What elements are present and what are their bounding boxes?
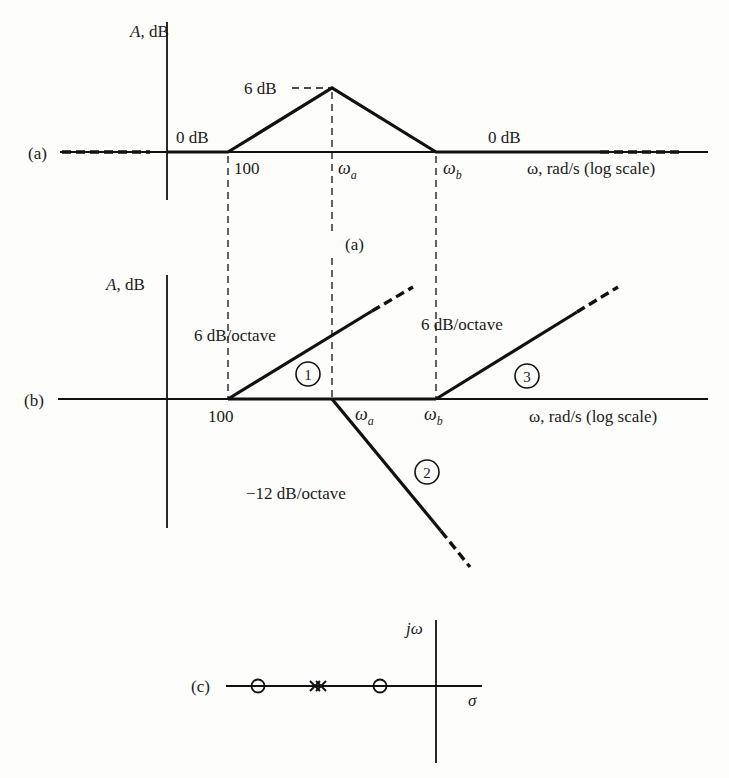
asymptote-1: [228, 311, 372, 399]
bode-diagram: A, dB (a) 6 dB 0 dB 0 dB 100 ωa ωb ω, ra…: [0, 0, 729, 778]
panel-a-high-level-label: 0 dB: [488, 128, 521, 147]
panel-b-x-label: ω, rad/s (log scale): [529, 407, 657, 426]
panel-b-breakpoint-wb: ωb: [424, 404, 443, 428]
panel-a-breakpoint-wb: ωb: [443, 158, 462, 182]
asymptote-2-extension: [441, 531, 470, 567]
asymptote-2-id: 2: [423, 465, 431, 481]
panel-c-label: (c): [191, 677, 210, 696]
panel-a-y-label: A, dB: [129, 22, 169, 41]
panel-a-label: (a): [28, 144, 47, 163]
panel-c: (c) jω σ: [191, 619, 482, 763]
panel-a-response-curve: [167, 88, 600, 152]
asymptote-1-extension: [372, 287, 413, 311]
panel-b-label: (b): [24, 391, 44, 410]
asymptote-1-slope-label: 6 dB/octave: [194, 326, 276, 345]
breakpoint-guides: [228, 92, 436, 399]
panel-b-breakpoint-wa: ωa: [355, 404, 374, 428]
asymptote-3-id: 3: [523, 369, 531, 385]
asymptote-3-extension: [577, 287, 618, 312]
panel-a-breakpoint-100: 100: [234, 159, 260, 178]
panel-a-peak-label: 6 dB: [244, 79, 277, 98]
asymptote-2-slope-label: −12 dB/octave: [246, 484, 346, 503]
panel-a-breakpoint-wa: ωa: [338, 158, 357, 182]
panel-c-real-label: σ: [468, 691, 477, 710]
panel-a-caption: (a): [345, 235, 364, 254]
panel-a-low-level-label: 0 dB: [176, 128, 209, 147]
panel-a: A, dB (a) 6 dB 0 dB 0 dB 100 ωa ωb ω, ra…: [28, 22, 708, 254]
panel-b: A, dB (b) 6 dB/octave 1 −12 dB/octave 2 …: [24, 275, 708, 567]
panel-b-breakpoint-100: 100: [208, 407, 234, 426]
panel-a-x-label: ω, rad/s (log scale): [527, 159, 655, 178]
panel-c-imag-label: jω: [404, 619, 423, 638]
panel-b-y-label: A, dB: [105, 275, 145, 294]
asymptote-3-slope-label: 6 dB/octave: [421, 315, 503, 334]
asymptote-1-id: 1: [304, 367, 312, 383]
